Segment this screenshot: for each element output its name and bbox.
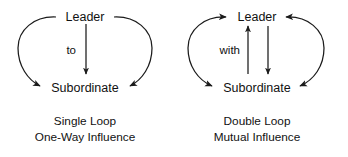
single-loop-top-node-label: Leader: [66, 10, 105, 24]
double-loop-caption-line1: Double Loop: [224, 114, 291, 128]
single-loop-left-arc: [18, 17, 56, 86]
single-loop-caption-line1: Single Loop: [54, 114, 117, 128]
diagram-single-loop: Leader Subordinate to Single Loop One-Wa…: [18, 10, 152, 144]
double-loop-caption-line2: Mutual Influence: [214, 130, 301, 144]
double-loop-top-node-label: Leader: [238, 10, 277, 24]
single-loop-edge-label: to: [66, 44, 76, 56]
single-loop-right-arc: [114, 17, 152, 86]
diagram-canvas: Leader Subordinate to Single Loop One-Wa…: [0, 0, 348, 157]
double-loop-bottom-node-label: Subordinate: [223, 81, 290, 95]
double-loop-right-arc: [286, 17, 324, 86]
single-loop-bottom-node-label: Subordinate: [51, 81, 118, 95]
double-loop-edge-label: with: [219, 44, 240, 56]
influence-loops-figure: Leader Subordinate to Single Loop One-Wa…: [0, 0, 348, 157]
diagram-double-loop: Leader Subordinate with Double Loop Mutu…: [188, 10, 324, 144]
single-loop-caption-line2: One-Way Influence: [35, 130, 136, 144]
